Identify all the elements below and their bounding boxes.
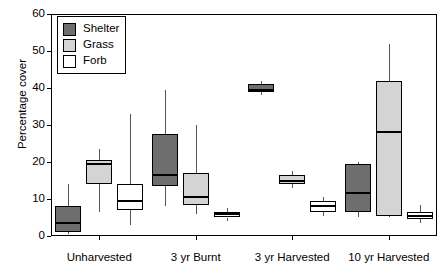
whisker-lower — [165, 186, 166, 206]
legend-swatch-icon — [63, 39, 76, 52]
whisker-lower — [68, 232, 69, 234]
whisker-upper — [420, 205, 421, 212]
whisker-lower — [261, 92, 262, 96]
y-tick-label: 0 — [21, 230, 45, 242]
whisker-upper — [165, 90, 166, 134]
whisker-upper — [389, 44, 390, 81]
x-tick-mark — [99, 236, 100, 240]
median-line — [248, 89, 274, 91]
median-line — [407, 215, 433, 217]
median-line — [310, 205, 336, 207]
whisker-lower — [323, 212, 324, 216]
whisker-upper — [196, 125, 197, 173]
y-tick-label: 50 — [21, 45, 45, 57]
whisker-upper — [68, 184, 69, 206]
x-tick-label: 10 yr Harvested — [319, 251, 443, 263]
median-line — [152, 174, 178, 176]
whisker-lower — [196, 205, 197, 214]
y-tick-label: 60 — [21, 8, 45, 20]
median-line — [345, 192, 371, 194]
legend-label: Shelter — [83, 23, 119, 35]
whisker-lower — [358, 212, 359, 218]
whisker-lower — [389, 216, 390, 218]
box-iqr — [117, 184, 143, 210]
x-tick-mark — [196, 236, 197, 240]
y-tick-label: 30 — [21, 119, 45, 131]
y-tick-label: 40 — [21, 82, 45, 94]
box-iqr — [152, 134, 178, 186]
median-line — [183, 196, 209, 198]
y-tick-mark — [47, 236, 51, 237]
whisker-lower — [99, 184, 100, 212]
box-iqr — [183, 173, 209, 204]
whisker-lower — [292, 184, 293, 188]
box-iqr — [55, 206, 81, 232]
x-tick-mark — [292, 236, 293, 240]
whisker-upper — [99, 149, 100, 160]
y-tick-label: 10 — [21, 193, 45, 205]
whisker-lower — [227, 218, 228, 222]
median-line — [279, 180, 305, 182]
whisker-lower — [420, 219, 421, 223]
median-line — [214, 213, 240, 215]
whisker-upper — [130, 114, 131, 184]
median-line — [86, 163, 112, 165]
x-tick-mark — [389, 236, 390, 240]
legend-label: Grass — [83, 39, 114, 51]
legend-item: Forb — [63, 53, 119, 69]
box-iqr — [376, 81, 402, 216]
legend-swatch-icon — [63, 55, 76, 68]
median-line — [117, 200, 143, 202]
legend-item: Grass — [63, 37, 119, 53]
whisker-lower — [130, 210, 131, 225]
legend: ShelterGrassForb — [57, 16, 126, 74]
median-line — [55, 222, 81, 224]
box-iqr — [345, 164, 371, 212]
y-tick-label: 20 — [21, 156, 45, 168]
legend-swatch-icon — [63, 23, 76, 36]
legend-label: Forb — [83, 55, 107, 67]
median-line — [376, 131, 402, 133]
legend-item: Shelter — [63, 21, 119, 37]
box-plot-chart: Percentage cover 0102030405060 Unharvest… — [0, 0, 443, 276]
